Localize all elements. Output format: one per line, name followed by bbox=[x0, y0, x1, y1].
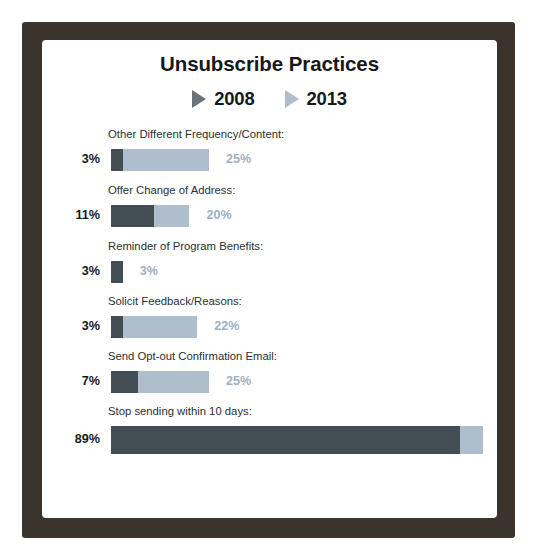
value-label-2008: 3% bbox=[42, 152, 100, 166]
legend-item-2013: 2013 bbox=[285, 88, 347, 110]
category-label: Offer Change of Address: bbox=[108, 184, 235, 196]
value-label-2008: 11% bbox=[42, 208, 100, 222]
bar-2008 bbox=[111, 149, 123, 171]
category-label: Send Opt-out Confirmation Email: bbox=[108, 350, 277, 362]
bar-2008 bbox=[111, 426, 460, 454]
value-label-2013: 22% bbox=[214, 319, 239, 333]
category-label: Solicit Feedback/Reasons: bbox=[108, 295, 242, 307]
legend-label-2008: 2008 bbox=[214, 88, 254, 110]
value-label-2013: 3% bbox=[140, 264, 158, 278]
triangle-right-icon bbox=[192, 90, 206, 108]
value-label-2013: 20% bbox=[206, 208, 231, 222]
value-label-2008: 3% bbox=[42, 319, 100, 333]
legend-label-2013: 2013 bbox=[307, 88, 347, 110]
value-label-2008: 7% bbox=[42, 374, 100, 388]
value-label-2008: 3% bbox=[42, 264, 100, 278]
poster-frame: Unsubscribe Practices 2008 2013 Other Di… bbox=[22, 22, 515, 538]
bar-2008 bbox=[111, 261, 123, 283]
bar-2013 bbox=[111, 316, 197, 338]
value-label-2008: 89% bbox=[42, 432, 100, 446]
legend-item-2008: 2008 bbox=[192, 88, 254, 110]
bar-2008 bbox=[111, 316, 123, 338]
value-label-2013: 25% bbox=[226, 152, 251, 166]
category-label: Stop sending within 10 days: bbox=[108, 405, 252, 417]
chart-card: Unsubscribe Practices 2008 2013 Other Di… bbox=[42, 40, 497, 518]
category-label: Other Different Frequency/Content: bbox=[108, 128, 284, 140]
category-label: Reminder of Program Benefits: bbox=[108, 240, 263, 252]
bar-chart-plot: Other Different Frequency/Content:3%25%O… bbox=[42, 128, 497, 518]
bar-2008 bbox=[111, 371, 138, 393]
bar-2013 bbox=[111, 149, 209, 171]
chart-legend: 2008 2013 bbox=[42, 88, 497, 110]
bar-2008 bbox=[111, 205, 154, 227]
triangle-right-icon bbox=[285, 90, 299, 108]
value-label-2013: 25% bbox=[226, 374, 251, 388]
page-title: Unsubscribe Practices bbox=[42, 52, 497, 76]
